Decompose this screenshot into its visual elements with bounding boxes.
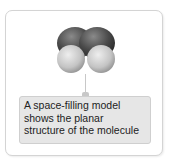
leader-line bbox=[85, 74, 86, 94]
hydrogen-atom-right bbox=[87, 45, 115, 73]
callout-box: A space-filling model shows the planar s… bbox=[19, 96, 151, 144]
space-filling-molecule-model bbox=[56, 25, 116, 75]
hydrogen-atom-left bbox=[57, 45, 85, 73]
callout-text: A space-filling model shows the planar s… bbox=[24, 99, 139, 136]
